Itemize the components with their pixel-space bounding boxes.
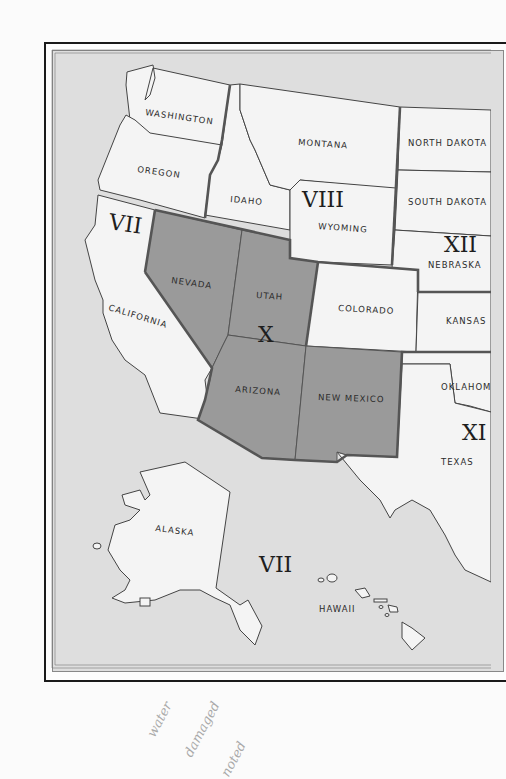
label-utah: UTAH: [256, 290, 284, 302]
label-nebraska: NEBRASKA: [428, 260, 482, 270]
region-x: X: [258, 322, 274, 347]
state-alaska-shape: [93, 462, 262, 645]
region-viii: VIII: [301, 187, 344, 212]
note-line-1: water: [145, 680, 186, 740]
note-line-3: noted: [219, 719, 260, 779]
label-texas: TEXAS: [440, 457, 474, 467]
region-xii: XII: [444, 232, 477, 257]
note-line-2: damaged: [182, 699, 223, 759]
label-oklahoma: OKLAHOM: [441, 382, 491, 392]
label-kansas: KANSAS: [446, 316, 486, 326]
label-south-dakota: SOUTH DAKOTA: [408, 197, 487, 207]
label-hawaii: HAWAII: [319, 604, 356, 614]
region-xi: XI: [462, 420, 486, 445]
region-vii-mainland: VII: [106, 209, 143, 239]
region-vii-pacific: VII: [258, 552, 292, 577]
state-new-mexico: [295, 346, 402, 462]
label-north-dakota: NORTH DAKOTA: [408, 138, 487, 148]
